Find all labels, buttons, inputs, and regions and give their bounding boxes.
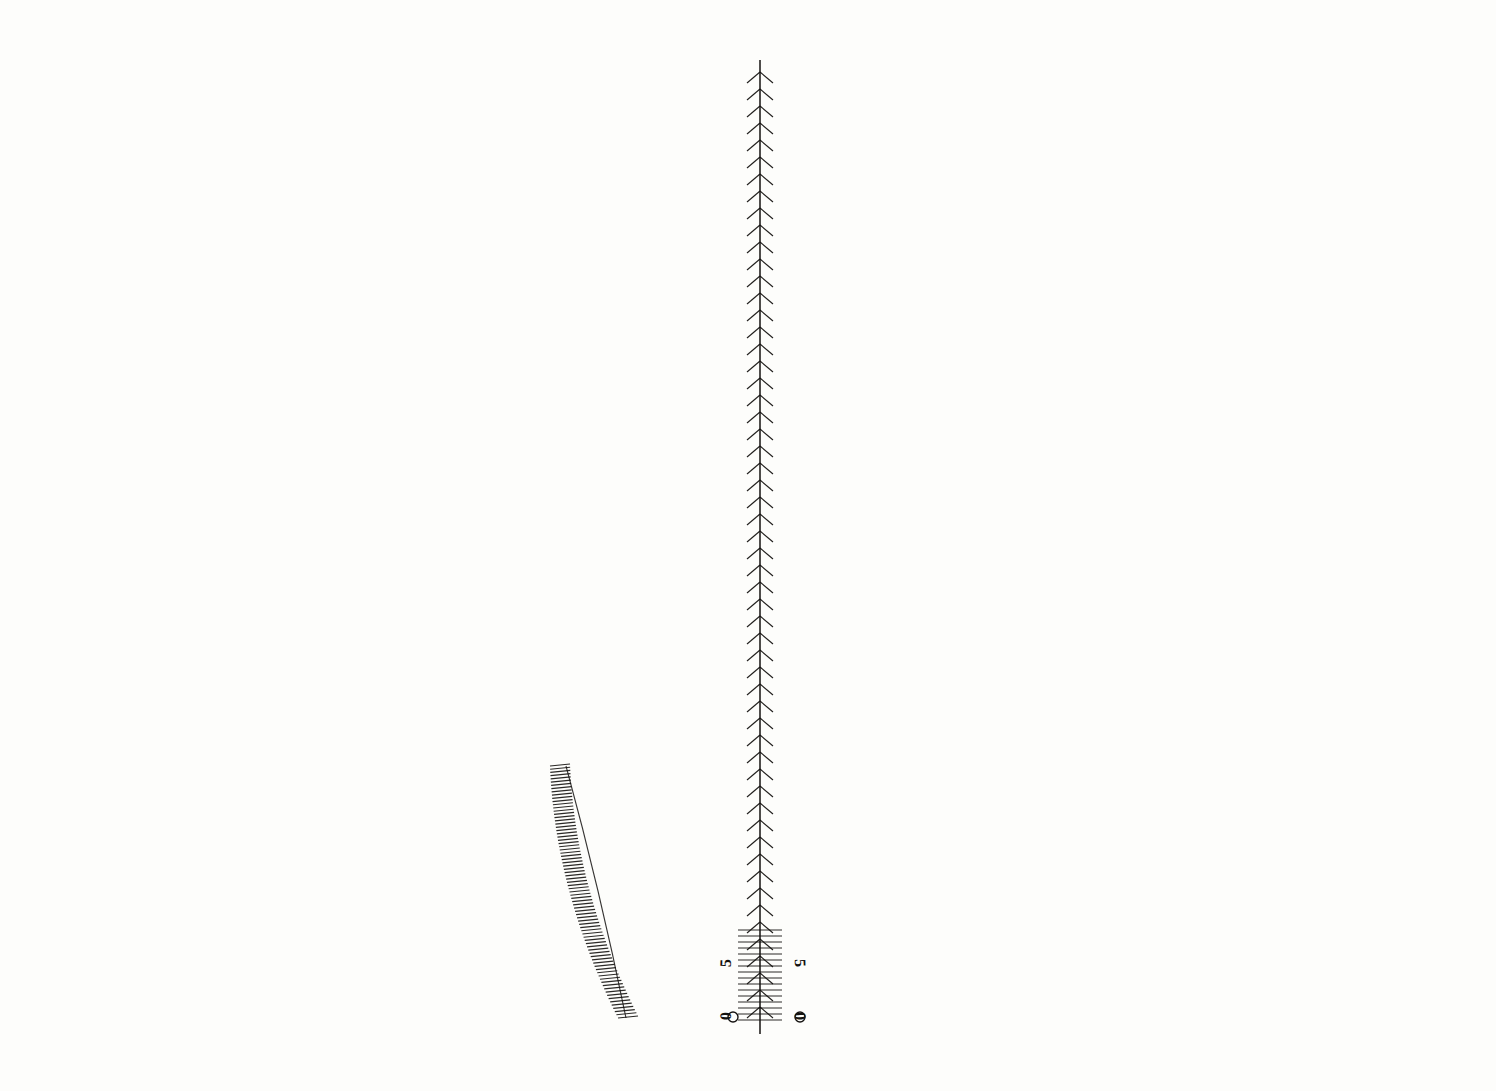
protractor-sheet: 5500 [0, 0, 1496, 1091]
protractor-drawing [0, 0, 1496, 1091]
